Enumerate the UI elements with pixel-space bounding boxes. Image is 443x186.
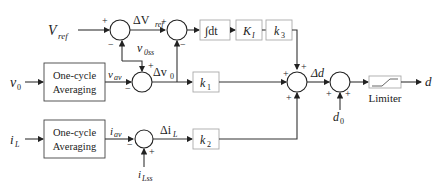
svg-text:av: av [114, 73, 122, 82]
svg-text:av: av [114, 130, 122, 139]
svg-text:I: I [251, 31, 255, 40]
svg-text:v: v [108, 68, 113, 80]
svg-text:ref: ref [58, 31, 69, 41]
k2-block [193, 129, 219, 149]
control-block-diagram: V ref + − ΔV ref + − ∫dt K I k 3 v 0ss +… [0, 0, 443, 186]
v0ss-label: v 0ss [137, 41, 154, 57]
svg-text:i: i [10, 132, 14, 147]
v0ss-line [122, 61, 142, 71]
limiter-label: Limiter [369, 92, 402, 104]
sum-junction-integrator [167, 20, 187, 40]
svg-text:v: v [137, 41, 143, 55]
block-label: Averaging [53, 141, 97, 152]
k3-to-sum-line [292, 30, 297, 69]
svg-text:3: 3 [281, 31, 285, 40]
d-output-label: d [425, 74, 432, 89]
one-cycle-averaging-block-voltage [44, 63, 105, 101]
iav-label: i av [110, 125, 122, 139]
svg-text:ΔV: ΔV [133, 13, 150, 27]
vref-input: V ref [48, 23, 69, 41]
svg-text:K: K [242, 24, 252, 38]
svg-text:0: 0 [340, 117, 344, 126]
minus-sign: − [180, 39, 186, 50]
plus-sign: + [301, 61, 307, 72]
svg-text:L: L [172, 130, 178, 139]
plus-sign: + [345, 88, 351, 99]
minus-sign: − [127, 139, 133, 150]
svg-text:i: i [138, 168, 141, 180]
svg-text:i: i [110, 125, 113, 137]
integrator-label: ∫dt [204, 24, 218, 38]
svg-text:Δv: Δv [153, 65, 167, 79]
k1-block [193, 72, 219, 92]
plus-sign: + [326, 88, 332, 99]
plus-sign: + [149, 146, 155, 157]
svg-text:V: V [48, 23, 58, 38]
v0-input: v 0 [10, 75, 21, 92]
svg-text:1: 1 [207, 83, 211, 92]
delta-v0-label: Δv 0 [153, 65, 174, 81]
svg-text:0: 0 [170, 72, 174, 81]
delta-iL-label: Δi L [160, 123, 178, 139]
block-label: Averaging [53, 84, 97, 95]
sum-junction-vref [110, 20, 130, 40]
block-label: One-cycle [53, 70, 96, 81]
minus-sign: − [108, 39, 114, 50]
svg-text:2: 2 [207, 140, 211, 149]
iL-input: i L [10, 132, 20, 149]
plus-sign: + [161, 16, 167, 27]
svg-text:k: k [274, 24, 280, 38]
svg-text:L: L [14, 140, 20, 149]
plus-sign: + [102, 15, 108, 26]
plus-sign: + [283, 68, 289, 79]
svg-text:k: k [200, 76, 206, 90]
block-label: One-cycle [53, 127, 96, 138]
plus-sign: + [286, 92, 292, 103]
svg-text:0: 0 [17, 83, 21, 92]
sum-junction-delta-d [287, 72, 307, 92]
sum-junction-v0 [132, 72, 152, 92]
minus-sign: − [125, 83, 131, 94]
svg-text:v: v [10, 75, 17, 90]
svg-text:Lss: Lss [141, 174, 153, 183]
svg-text:d: d [333, 110, 340, 124]
d0-input: d 0 [333, 110, 344, 126]
iLss-input: i Lss [138, 168, 153, 183]
svg-text:0ss: 0ss [144, 48, 154, 57]
vav-label: v av [108, 68, 122, 82]
one-cycle-averaging-block-current [44, 120, 105, 158]
svg-text:Δi: Δi [160, 123, 172, 137]
delta-d-label: Δd [310, 66, 325, 80]
svg-text:k: k [200, 133, 206, 147]
